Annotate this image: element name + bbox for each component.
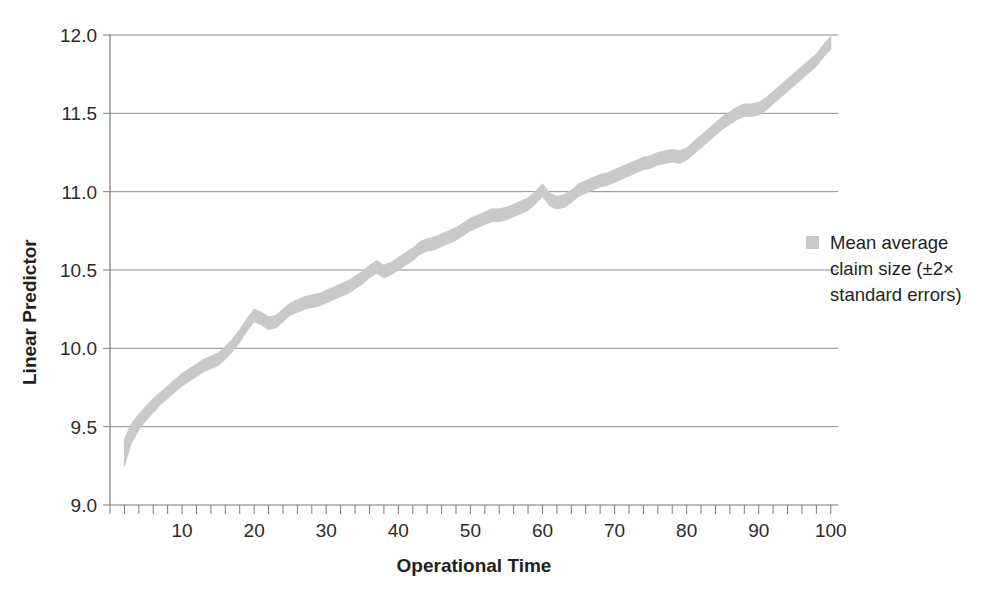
x-axis-title: Operational Time [397,555,552,576]
legend-label-line2: claim size (±2× [830,258,954,279]
y-tick-label: 12.0 [60,25,97,46]
linear-predictor-chart: 9.09.510.010.511.011.512.0 1020304050607… [0,0,1001,600]
x-tick-label: 40 [388,520,409,541]
mean-claim-size-band [124,37,830,466]
y-tick-label: 9.5 [71,417,97,438]
x-tick-label: 80 [676,520,697,541]
y-tick-label: 11.0 [61,182,97,203]
y-axis-title: Linear Predictor [19,239,40,385]
y-tick-label: 11.5 [61,103,97,124]
x-tick-label: 90 [748,520,769,541]
gridlines [110,35,838,427]
x-tick-label: 20 [244,520,265,541]
x-axis-tick-labels: 102030405060708090100 [172,520,847,541]
confidence-band [124,37,830,466]
y-tick-label: 9.0 [71,495,97,516]
legend: Mean average claim size (±2× standard er… [806,232,962,305]
chart-figure: 9.09.510.010.511.011.512.0 1020304050607… [0,0,1001,600]
x-tick-label: 100 [815,520,847,541]
x-tick-label: 70 [604,520,625,541]
x-tick-label: 60 [532,520,553,541]
y-tick-label: 10.0 [60,338,97,359]
x-axis-ticks [110,505,831,514]
y-tick-label: 10.5 [60,260,97,281]
legend-label-line1: Mean average [830,232,948,253]
x-tick-label: 10 [172,520,193,541]
y-axis-tick-labels: 9.09.510.010.511.011.512.0 [60,25,97,516]
x-tick-label: 30 [316,520,337,541]
legend-marker-square [806,236,819,249]
x-tick-label: 50 [460,520,481,541]
legend-label-line3: standard errors) [830,284,962,305]
